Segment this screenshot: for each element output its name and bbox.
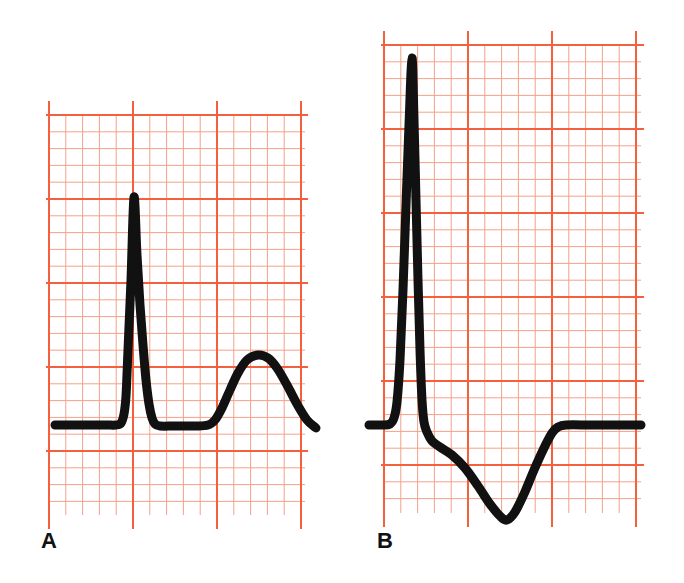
panel-label-a: A [41, 530, 57, 552]
figure-background [0, 0, 684, 583]
ecg-figure: A B [0, 0, 684, 583]
panel-label-b: B [377, 530, 393, 552]
ecg-chart-svg [0, 0, 684, 583]
